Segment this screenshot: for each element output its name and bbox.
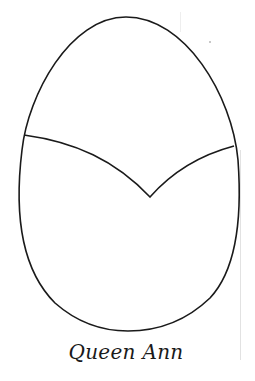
- scan-artifact: [209, 41, 211, 43]
- figure-caption: Queen Ann: [0, 340, 252, 364]
- scan-artifact: [240, 150, 241, 360]
- egg-pattern-figure: Queen Ann: [0, 0, 255, 381]
- queen-ann-cut-line: [24, 135, 234, 197]
- egg-outline-drawing: [0, 0, 255, 381]
- scan-artifact: [180, 12, 181, 32]
- egg-outline: [19, 17, 239, 331]
